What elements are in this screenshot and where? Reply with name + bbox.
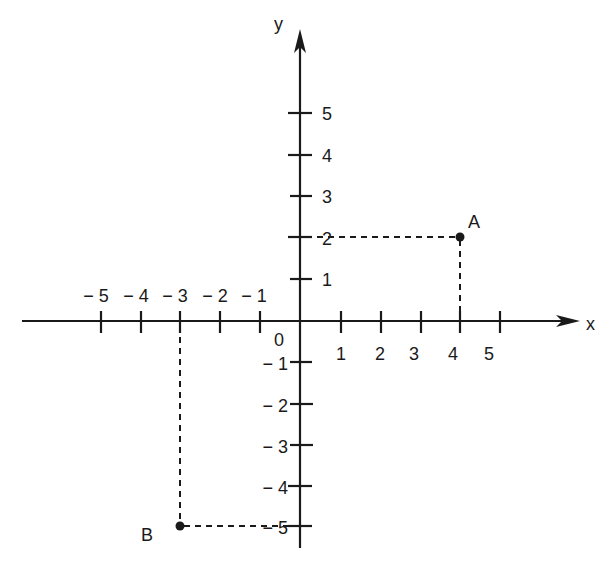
x-tick-label: 5 [484,344,494,364]
x-tick-label: − 4 [123,286,149,306]
y-tick-label: 3 [322,187,332,207]
y-tick-label: − 2 [262,396,288,416]
coordinate-plane: y x A B 0 − 5 − 4 − 3 − 2 − 1 1 2 3 4 5 … [0,0,612,566]
y-tick-label: − 1 [262,354,288,374]
x-axis-label: x [586,314,595,334]
x-tick-label: − 5 [83,286,109,306]
x-tick-label: − 2 [202,286,228,306]
y-axis-label: y [274,14,283,34]
x-tick-label: 3 [409,344,419,364]
point-a-label: A [468,212,480,232]
y-tick-label: 2 [322,229,332,249]
projection-lines [180,237,460,526]
y-tick-label: − 3 [262,437,288,457]
y-tick-label: − 4 [262,478,288,498]
x-tick-label: 2 [375,344,385,364]
point-b-label: B [141,525,153,545]
y-tick-label: 5 [322,104,332,124]
point-b [176,522,185,531]
x-tick-label: − 3 [162,286,188,306]
x-tick-label: − 1 [241,286,267,306]
x-tick-label: 1 [336,344,346,364]
y-tick-label: 4 [322,146,332,166]
y-tick-label: 1 [322,270,332,290]
x-tick-label: 4 [448,344,458,364]
point-a [456,233,465,242]
origin-label: 0 [274,330,284,350]
y-tick-label: − 5 [262,518,288,538]
